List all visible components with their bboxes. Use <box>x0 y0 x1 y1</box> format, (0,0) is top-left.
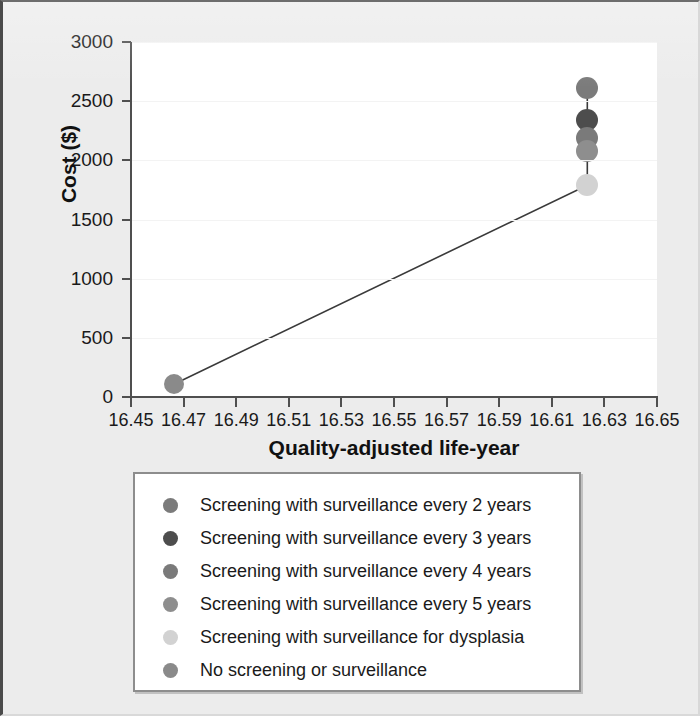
x-axis-tick <box>288 398 290 407</box>
figure-panel: 050010001500200025003000 16.4516.4716.49… <box>0 0 700 716</box>
x-axis-tick-label: 16.65 <box>621 410 693 430</box>
legend-item: Screening with surveillance every 2 year… <box>135 488 579 522</box>
legend-item-label: Screening with surveillance every 4 year… <box>200 561 531 582</box>
legend-marker-icon <box>163 498 178 513</box>
legend-item-label: No screening or surveillance <box>200 660 427 681</box>
data-point <box>576 174 598 196</box>
x-axis-tick <box>183 398 185 407</box>
legend-marker-icon <box>163 663 178 678</box>
data-point <box>576 140 598 162</box>
y-axis-tick-label: 500 <box>51 328 113 347</box>
legend: Screening with surveillance every 2 year… <box>133 472 581 692</box>
y-axis-tick <box>122 219 131 221</box>
legend-marker-icon <box>163 564 178 579</box>
x-axis-tick <box>551 398 553 407</box>
x-axis-tick <box>235 398 237 407</box>
y-axis-tick-label: 1000 <box>51 269 113 288</box>
legend-item-label: Screening with surveillance every 5 year… <box>200 594 531 615</box>
y-axis-tick <box>122 100 131 102</box>
x-axis-tick <box>393 398 395 407</box>
x-axis-tick <box>130 398 132 407</box>
legend-item: No screening or surveillance <box>135 653 579 687</box>
y-axis-title: Cost ($) <box>57 94 81 234</box>
gridline <box>131 42 657 43</box>
x-axis-title: Quality-adjusted life-year <box>131 436 657 460</box>
gridline <box>131 101 657 102</box>
frontier-polyline <box>174 88 587 384</box>
x-axis-tick <box>603 398 605 407</box>
gridline <box>131 160 657 161</box>
y-axis-tick <box>122 41 131 43</box>
data-point <box>164 374 184 394</box>
x-axis-tick <box>340 398 342 407</box>
legend-marker-icon <box>163 597 178 612</box>
y-axis-tick-label: 0 <box>51 387 113 406</box>
legend-item: Screening with surveillance every 4 year… <box>135 554 579 588</box>
legend-item: Screening with surveillance every 3 year… <box>135 521 579 555</box>
x-axis-tick <box>498 398 500 407</box>
legend-marker-icon <box>163 531 178 546</box>
y-axis-tick <box>122 159 131 161</box>
y-axis-tick-label: 3000 <box>51 32 113 51</box>
data-point <box>576 77 598 99</box>
legend-item-label: Screening with surveillance every 2 year… <box>200 495 531 516</box>
legend-item-label: Screening with surveillance every 3 year… <box>200 528 531 549</box>
legend-marker-icon <box>163 630 178 645</box>
gridline <box>131 279 657 280</box>
x-axis-tick <box>446 398 448 407</box>
legend-item: Screening with surveillance every 5 year… <box>135 587 579 621</box>
x-axis-tick <box>656 398 658 407</box>
legend-item: Screening with surveillance for dysplasi… <box>135 620 579 654</box>
y-axis-tick <box>122 278 131 280</box>
gridline <box>131 338 657 339</box>
gridline <box>131 220 657 221</box>
y-axis-tick <box>122 337 131 339</box>
legend-item-label: Screening with surveillance for dysplasi… <box>200 627 524 648</box>
